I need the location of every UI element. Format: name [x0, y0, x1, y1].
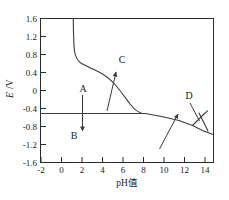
- y-tick-label: 0: [33, 86, 38, 96]
- y-tick-label: 1.2: [26, 32, 37, 42]
- y-tick-label: -1.2: [23, 140, 37, 150]
- y-tick-label: -0.8: [23, 122, 38, 132]
- lower-sloping-line: [146, 114, 193, 126]
- y-axis-title-unit: /V: [5, 79, 15, 89]
- y-axis-title-symbol: E: [5, 92, 15, 99]
- arrow-d-up: [160, 114, 179, 149]
- x-tick-label: 0: [59, 165, 64, 175]
- y-tick-label: 1.6: [26, 14, 38, 24]
- region-label-b: B: [71, 130, 78, 141]
- x-tick-label: 12: [180, 165, 189, 175]
- y-tick-label: 0.4: [26, 68, 38, 78]
- y-tick-label: -1.6: [23, 158, 38, 168]
- x-tick-label: 6: [121, 165, 126, 175]
- region-label-d: D: [185, 90, 192, 101]
- y-axis-ticks: [41, 19, 46, 163]
- y-tick-label: -0.4: [23, 104, 38, 114]
- x-tick-label: 4: [100, 165, 105, 175]
- region-label-c: C: [119, 54, 126, 65]
- x-axis-tick-labels: -2 0 2 4 6 8 10 12 14: [37, 165, 210, 175]
- x-tick-label: 2: [80, 165, 85, 175]
- y-axis-title: E /V: [5, 79, 15, 99]
- leader-line-d: [190, 103, 200, 121]
- x-tick-label: 14: [201, 165, 211, 175]
- x-axis-title: pH值: [116, 177, 138, 188]
- pourbaix-diagram: -2 0 2 4 6 8 10 12 14 1.6 1.2 0.8 0.4 0 …: [0, 0, 229, 200]
- x-tick-label: -2: [37, 165, 45, 175]
- x-axis-ticks: [41, 157, 205, 162]
- branch-lower-line: [193, 126, 214, 135]
- x-tick-label: 10: [160, 165, 170, 175]
- branch-crossing-segment: [199, 113, 208, 131]
- region-label-a: A: [79, 83, 87, 94]
- chart-canvas: -2 0 2 4 6 8 10 12 14 1.6 1.2 0.8 0.4 0 …: [0, 0, 229, 200]
- y-tick-label: 0.8: [26, 50, 38, 60]
- x-tick-label: 8: [141, 165, 146, 175]
- y-axis-tick-labels: 1.6 1.2 0.8 0.4 0 -0.4 -0.8 -1.2 -1.6: [23, 14, 38, 168]
